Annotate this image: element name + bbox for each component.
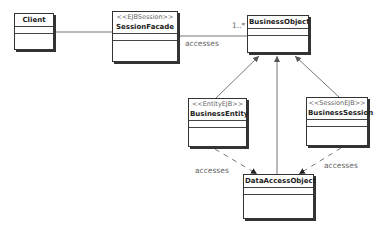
class-header: <<EntityEJB>> BusinessEntity [189,99,246,121]
dependency-label-entity-accesses: accesses [195,166,229,175]
class-name: Client [16,15,52,25]
class-session-facade[interactable]: <<EJBSession>> SessionFacade [112,11,178,62]
class-name: BusinessEntity [190,109,245,119]
attributes-compartment [189,121,246,128]
class-business-object[interactable]: BusinessObject [247,15,309,53]
generalization-session-businessobject [295,56,339,97]
attributes-compartment [15,27,53,34]
attributes-compartment [307,120,367,127]
class-name: DataAccessObject [245,176,312,186]
class-name: BusinessSession [308,108,366,118]
attributes-compartment [248,29,308,36]
class-header: DataAccessObject [244,175,313,188]
class-stereotype: <<EntityEJB>> [190,100,245,109]
dependency-label-session-accesses: accesses [324,161,358,170]
class-header: <<SessionEJB>> BusinessSession [307,98,367,120]
class-name: BusinessObject [249,17,307,27]
class-data-access-object[interactable]: DataAccessObject [243,174,314,219]
class-client[interactable]: Client [14,13,54,50]
attributes-compartment [113,34,177,41]
class-stereotype: <<EJBSession>> [114,13,176,22]
attributes-compartment [244,188,313,195]
class-stereotype: <<SessionEJB>> [308,99,366,108]
class-name: SessionFacade [114,22,176,32]
class-header: Client [15,14,53,27]
class-header: <<EJBSession>> SessionFacade [113,12,177,34]
class-business-session[interactable]: <<SessionEJB>> BusinessSession [306,97,368,146]
multiplicity-label: 1..* [232,21,245,30]
class-header: BusinessObject [248,16,308,29]
generalization-entity-businessobject [216,56,259,98]
class-business-entity[interactable]: <<EntityEJB>> BusinessEntity [188,98,247,147]
association-label-accesses: accesses [185,39,219,48]
